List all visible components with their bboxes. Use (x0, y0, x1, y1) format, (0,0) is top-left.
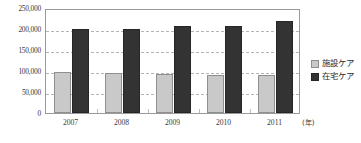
bar-group (199, 10, 250, 113)
bar-facility-care-2008 (105, 73, 122, 113)
x-tick-label: 2010 (198, 118, 249, 128)
legend-label: 施設ケア (322, 59, 354, 68)
y-tick-label: 0 (0, 110, 41, 118)
bar-group (97, 10, 148, 113)
bar-group (46, 10, 97, 113)
x-axis-unit-label: (年) (302, 118, 315, 128)
legend-swatch-home-care-icon (311, 73, 319, 81)
x-tick-label: 2009 (147, 118, 198, 128)
x-tick-label: 2008 (96, 118, 147, 128)
bar-facility-care-2009 (156, 74, 173, 113)
plot-area (45, 9, 300, 114)
legend-label: 在宅ケア (322, 72, 354, 81)
bar-home-care-2010 (225, 26, 242, 113)
legend-item[interactable]: 在宅ケア (311, 70, 361, 83)
y-tick-label: 200,000 (0, 26, 41, 34)
x-axis: 20072008200920102011 (45, 118, 300, 132)
chart-legend: 施設ケア在宅ケア (311, 57, 361, 83)
y-axis: 050,000100,000150,000200,000250,000 (0, 0, 41, 143)
bar-home-care-2009 (174, 26, 191, 113)
bar-facility-care-2010 (207, 75, 224, 113)
bar-group (250, 10, 301, 113)
legend-item[interactable]: 施設ケア (311, 57, 361, 70)
bar-chart-figure: 050,000100,000150,000200,000250,000 2007… (0, 0, 361, 143)
x-tick-label: 2011 (249, 118, 300, 128)
x-tick-label: 2007 (45, 118, 96, 128)
y-tick-label: 100,000 (0, 68, 41, 76)
bar-facility-care-2011 (258, 75, 275, 113)
y-tick-label: 150,000 (0, 47, 41, 55)
bar-home-care-2011 (276, 21, 293, 113)
bar-facility-care-2007 (54, 72, 71, 113)
y-tick-label: 50,000 (0, 89, 41, 97)
y-tick-label: 250,000 (0, 5, 41, 13)
bar-home-care-2007 (72, 29, 89, 113)
legend-swatch-facility-care-icon (311, 60, 319, 68)
bar-group (148, 10, 199, 113)
bar-home-care-2008 (123, 29, 140, 113)
